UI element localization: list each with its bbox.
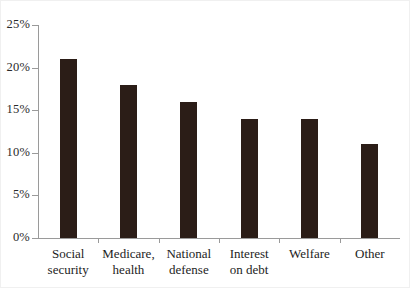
y-tick-label: 5% bbox=[0, 188, 30, 201]
bar bbox=[301, 119, 318, 238]
category-label: Other bbox=[340, 246, 400, 262]
bar-chart: 0%5%10%15%20%25% Social securityMedicare… bbox=[0, 0, 410, 288]
bar bbox=[60, 59, 77, 238]
y-tick-label: 15% bbox=[0, 103, 30, 116]
x-tick-mark bbox=[98, 238, 99, 243]
y-tick-mark bbox=[32, 195, 38, 196]
category-label: Interest on debt bbox=[219, 246, 279, 278]
category-label: Social security bbox=[38, 246, 98, 278]
bar bbox=[120, 85, 137, 238]
y-tick-label: 10% bbox=[0, 146, 30, 159]
x-tick-mark bbox=[340, 238, 341, 243]
y-tick-label: 25% bbox=[0, 18, 30, 31]
x-tick-mark bbox=[279, 238, 280, 243]
y-tick-mark bbox=[32, 153, 38, 154]
y-tick-mark bbox=[32, 25, 38, 26]
category-label: Medicare, health bbox=[98, 246, 158, 278]
y-tick-mark bbox=[32, 238, 38, 239]
plot-area: 0%5%10%15%20%25% Social securityMedicare… bbox=[0, 0, 410, 288]
y-tick-mark bbox=[32, 68, 38, 69]
y-axis-line bbox=[38, 25, 39, 239]
bar bbox=[180, 102, 197, 238]
y-tick-label: 0% bbox=[0, 231, 30, 244]
y-tick-label: 20% bbox=[0, 61, 30, 74]
category-label: Welfare bbox=[279, 246, 339, 262]
bar bbox=[241, 119, 258, 238]
x-tick-mark bbox=[219, 238, 220, 243]
x-tick-mark bbox=[159, 238, 160, 243]
bar bbox=[361, 144, 378, 238]
category-label: National defense bbox=[159, 246, 219, 278]
y-tick-mark bbox=[32, 110, 38, 111]
